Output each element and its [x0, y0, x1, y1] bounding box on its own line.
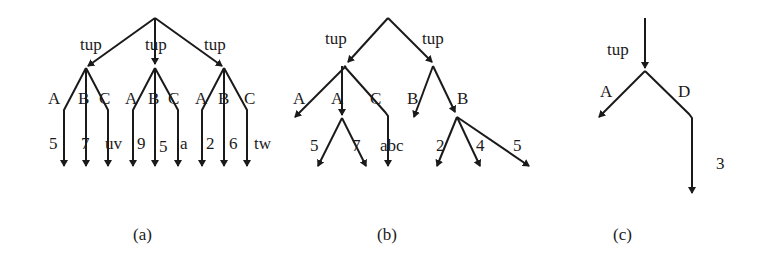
label-tup: tup	[325, 29, 347, 48]
label-attr: B	[457, 89, 468, 108]
diagram-c: tup A D 3 (c)	[599, 18, 725, 244]
caption-c: (c)	[613, 225, 632, 244]
label-attr: B	[148, 89, 159, 108]
label-value: 5	[49, 134, 58, 153]
label-value: abc	[380, 136, 404, 155]
label-tup: tup	[145, 35, 167, 54]
label-tup: tup	[204, 35, 226, 54]
tree-diagrams: tup tup tup A B C 5 7 uv A B C 9 5 a A B…	[0, 0, 757, 267]
label-attr: C	[244, 89, 255, 108]
edge-attr	[433, 66, 455, 112]
label-attr: A	[293, 89, 306, 108]
label-value: 9	[137, 134, 146, 153]
label-attr: B	[407, 89, 418, 108]
edge-value	[318, 118, 342, 166]
label-attr: B	[218, 89, 229, 108]
label-tup: tup	[80, 35, 102, 54]
diagram-a: tup tup tup A B C 5 7 uv A B C 9 5 a A B…	[48, 18, 272, 244]
label-value: 2	[206, 134, 215, 153]
caption-a: (a)	[133, 225, 152, 244]
label-attr: A	[125, 89, 138, 108]
label-attr: A	[331, 89, 344, 108]
edge-tup	[348, 18, 388, 62]
label-value: 5	[310, 136, 319, 155]
label-value: 5	[513, 136, 522, 155]
label-attr: C	[168, 89, 179, 108]
label-attr: A	[48, 89, 61, 108]
label-value: 6	[229, 134, 238, 153]
label-value: 7	[81, 134, 90, 153]
label-tup: tup	[422, 29, 444, 48]
label-value: uv	[105, 134, 123, 153]
label-value: 7	[352, 136, 361, 155]
label-value: a	[180, 134, 188, 153]
caption-b: (b)	[377, 225, 397, 244]
label-value: tw	[254, 134, 272, 153]
label-tup: tup	[607, 40, 629, 59]
label-attr: A	[195, 89, 208, 108]
label-attr: A	[600, 82, 613, 101]
diagram-b: tup tup A A C 5 7 abc B B 2 4 5 (b)	[293, 18, 529, 244]
label-value: 3	[716, 154, 725, 173]
label-value: 2	[436, 136, 445, 155]
label-attr: C	[370, 89, 381, 108]
label-attr: D	[678, 82, 690, 101]
label-attr: C	[99, 89, 110, 108]
label-value: 5	[159, 137, 168, 156]
label-attr: B	[78, 89, 89, 108]
label-value: 4	[476, 136, 485, 155]
